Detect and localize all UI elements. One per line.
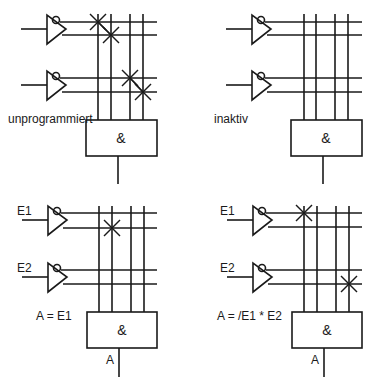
inverting-buffer-icon (253, 263, 272, 292)
panel-a-equals-not-e1-and-e2: E1 E2 & A A = /E1 * E2 (217, 204, 362, 377)
panel-unprogrammed: & unprogrammiert (8, 14, 157, 184)
expression-label: A = /E1 * E2 (217, 309, 282, 323)
output-label: A (106, 353, 114, 367)
fuse-x-icon (296, 205, 357, 292)
input-label-e1: E1 (220, 204, 235, 218)
input-label-e2: E2 (17, 261, 32, 275)
expression-label: A = E1 (36, 309, 72, 323)
fuse-x-icon (90, 14, 151, 100)
inverting-buffer-icon (252, 15, 271, 44)
and-gate-label: & (116, 130, 126, 146)
input-label-e1: E1 (17, 204, 32, 218)
panel-inactive: & inaktiv (214, 14, 362, 184)
caption-inactive: inaktiv (214, 112, 248, 126)
and-gate-label: & (117, 322, 127, 338)
inverting-buffer-icon (47, 15, 66, 44)
and-gate-label: & (321, 130, 331, 146)
inverting-buffer-icon (48, 263, 67, 292)
inverting-buffer-icon (252, 71, 271, 100)
inverting-buffer-icon (48, 206, 67, 235)
input-label-e2: E2 (220, 261, 235, 275)
caption-unprogrammed: unprogrammiert (8, 112, 93, 126)
inverting-buffer-icon (253, 206, 272, 235)
inverting-buffer-icon (47, 71, 66, 100)
panel-a-equals-e1: E1 E2 & A A = E1 (17, 204, 157, 377)
and-gate-label: & (322, 322, 332, 338)
output-label: A (311, 353, 319, 367)
